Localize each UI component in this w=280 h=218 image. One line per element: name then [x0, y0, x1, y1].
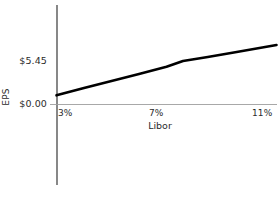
eps-libor-line-chart: $5.45 $0.00 EPS 3% 7% 11% Libor	[0, 0, 280, 218]
data-series-line	[57, 45, 277, 95]
y-tick-label-upper: $5.45	[3, 56, 47, 66]
x-tick-label-mid: 7%	[149, 108, 163, 118]
x-axis-title: Libor	[110, 120, 210, 131]
x-tick-label-right: 11%	[252, 108, 272, 118]
x-tick-label-left: 3%	[58, 108, 72, 118]
y-axis-title: EPS	[1, 82, 11, 112]
chart-plot-area	[0, 0, 280, 218]
